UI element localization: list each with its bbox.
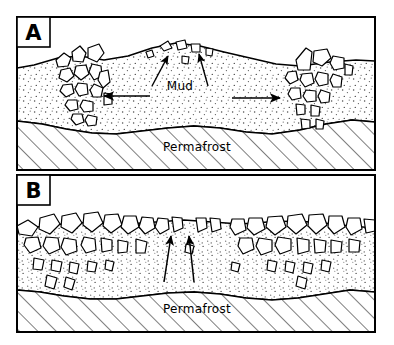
panel-b-letter: B — [25, 179, 41, 203]
cross-section-figure: Mud Permafrost A — [0, 0, 394, 345]
permafrost-label-a: Permafrost — [163, 140, 231, 154]
panel-a: Mud Permafrost A — [17, 17, 375, 170]
panel-b: Permafrost B — [17, 175, 375, 332]
permafrost-label-b: Permafrost — [163, 302, 231, 316]
mud-label: Mud — [167, 79, 193, 93]
figure-container: Mud Permafrost A — [0, 0, 394, 345]
panel-a-letter: A — [25, 21, 42, 45]
